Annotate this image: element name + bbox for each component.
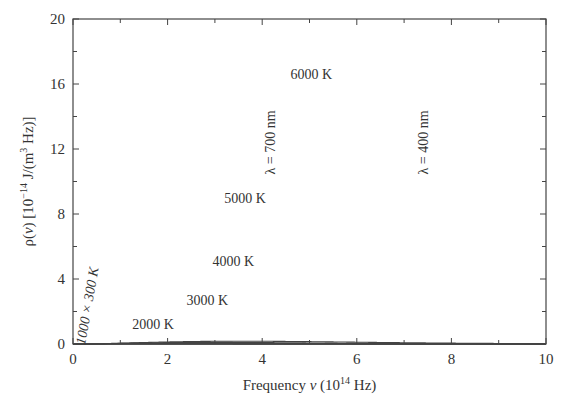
x-tick-label: 0 bbox=[69, 351, 77, 367]
y-tick-label: 16 bbox=[50, 76, 66, 92]
x-tick-label: 2 bbox=[164, 351, 172, 367]
annotation-label: 3000 K bbox=[187, 293, 229, 308]
tick-labels: 0246810048121620 bbox=[50, 11, 554, 367]
annotation-label: 4000 K bbox=[213, 254, 255, 269]
x-axis-label: Frequency ν (1014 Hz) bbox=[243, 375, 377, 394]
x-tick-label: 8 bbox=[448, 351, 456, 367]
x-tick-label: 10 bbox=[539, 351, 554, 367]
blackbody-spectrum-chart: 0246810048121620 6000 K5000 K4000 K3000 … bbox=[0, 0, 565, 409]
y-tick-label: 20 bbox=[50, 11, 65, 27]
annotation-label: 6000 K bbox=[291, 67, 333, 82]
y-tick-label: 12 bbox=[50, 141, 65, 157]
curve-annotations: 6000 K5000 K4000 K3000 K2000 K1000 × 300… bbox=[73, 67, 430, 346]
y-axis-label: ρ(ν) [10−14 J/(m3 Hz)] bbox=[18, 116, 37, 246]
y-tick-label: 8 bbox=[58, 206, 66, 222]
y-tick-label: 4 bbox=[58, 271, 66, 287]
y-tick-label: 0 bbox=[58, 336, 66, 352]
chart-container: 0246810048121620 6000 K5000 K4000 K3000 … bbox=[0, 0, 565, 409]
x-tick-label: 6 bbox=[353, 351, 361, 367]
annotation-label: 5000 K bbox=[224, 191, 266, 206]
annotation-label: 1000 × 300 K bbox=[73, 265, 101, 345]
annotation-label: λ = 700 nm bbox=[263, 110, 278, 174]
annotation-label: 2000 K bbox=[132, 317, 174, 332]
annotation-label: λ = 400 nm bbox=[416, 110, 431, 174]
x-tick-label: 4 bbox=[258, 351, 266, 367]
